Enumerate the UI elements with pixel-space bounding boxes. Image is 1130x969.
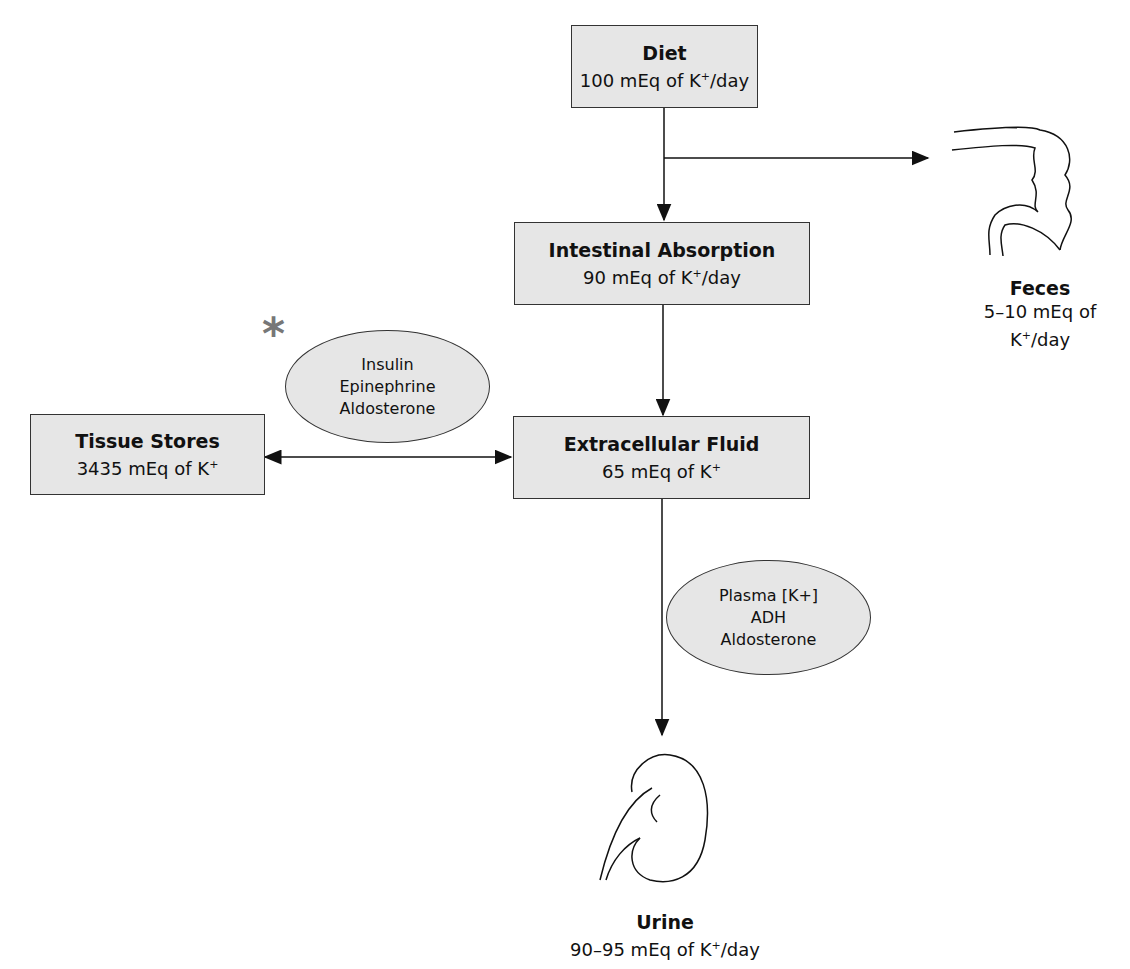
intestinal-title: Intestinal Absorption [549,238,776,262]
regulator-aldosterone-renal: Aldosterone [721,629,817,651]
kidney-icon [600,755,707,882]
ecf-value: 65 mEq of K+ [602,456,721,484]
ecf-title: Extracellular Fluid [564,432,760,456]
diet-value: 100 mEq of K+/day [580,65,749,93]
regulator-aldosterone: Aldosterone [340,398,436,420]
intestinal-absorption-box: Intestinal Absorption 90 mEq of K+/day [514,222,810,305]
colon-icon [952,127,1071,256]
intestinal-value: 90 mEq of K+/day [583,262,741,290]
regulator-adh: ADH [751,607,786,629]
renal-regulators-ellipse: Plasma [K+] ADH Aldosterone [666,560,871,675]
urine-label: Urine 90–95 mEq of K+/day [560,910,770,962]
diet-box: Diet 100 mEq of K+/day [571,25,758,108]
diet-title: Diet [642,41,686,65]
tissue-value: 3435 mEq of K+ [77,453,219,481]
extracellular-fluid-box: Extracellular Fluid 65 mEq of K+ [513,416,810,499]
asterisk-marker-icon: * [262,308,285,359]
tissue-regulators-ellipse: Insulin Epinephrine Aldosterone [285,330,490,443]
regulator-plasma-k: Plasma [K+] [719,585,818,607]
feces-label: Feces 5–10 mEq of K+/day [955,276,1125,352]
tissue-title: Tissue Stores [75,429,220,453]
regulator-insulin: Insulin [361,354,413,376]
regulator-epinephrine: Epinephrine [340,376,436,398]
tissue-stores-box: Tissue Stores 3435 mEq of K+ [30,414,265,495]
